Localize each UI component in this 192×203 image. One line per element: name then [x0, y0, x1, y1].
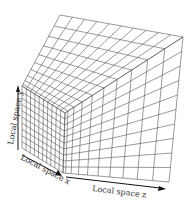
z-axis-label: Local space z — [92, 184, 147, 200]
warped-grid-diagram: Local space y Local space x Local space … — [0, 0, 192, 203]
grid-lines — [22, 15, 183, 182]
x-axis-label: Local space x — [19, 153, 72, 187]
